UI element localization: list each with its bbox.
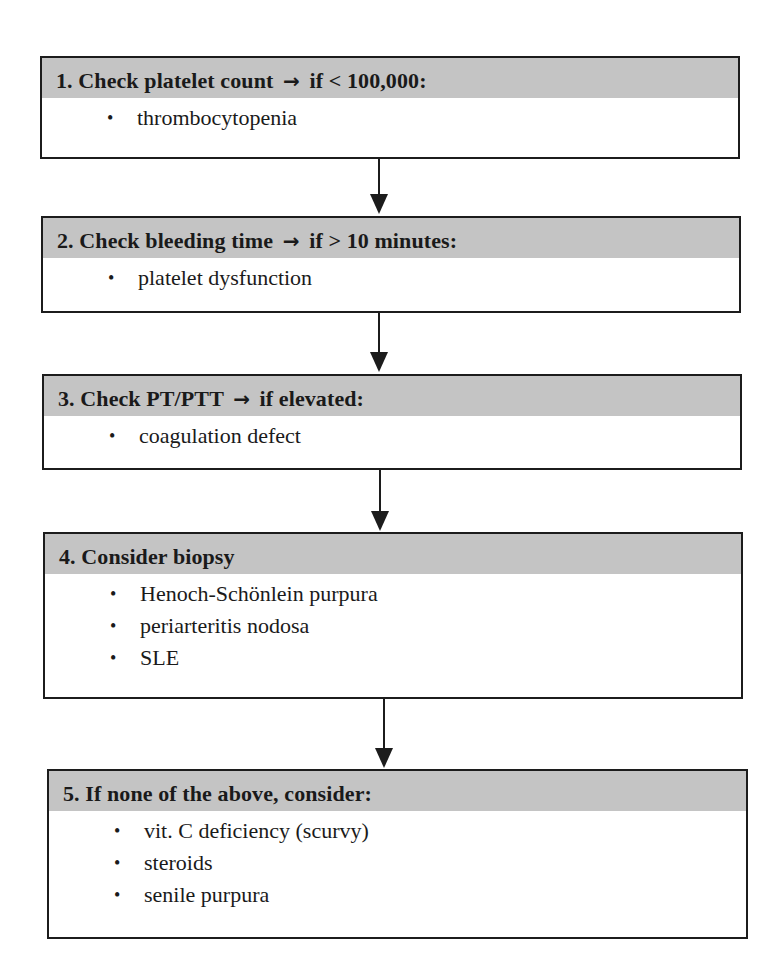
arrow-down-icon [375, 748, 393, 768]
step-2-items: • platelet dysfunction [43, 258, 739, 294]
step-5-items: • vit. C deficiency (scurvy) • steroids … [49, 811, 746, 911]
step-5-box: 5. If none of the above, consider: • vit… [47, 769, 748, 939]
right-arrow-icon: → [233, 387, 250, 411]
step-4-box: 4. Consider biopsy • Henoch-Schönlein pu… [43, 532, 743, 699]
bullet-icon: • [110, 610, 116, 642]
list-item: • vit. C deficiency (scurvy) [49, 815, 746, 847]
step-4-header: 4. Consider biopsy [45, 534, 741, 574]
list-item: • platelet dysfunction [43, 262, 739, 294]
list-item: • senile purpura [49, 879, 746, 911]
bullet-icon: • [114, 847, 120, 879]
bullet-icon: • [110, 642, 116, 674]
step-2-header: 2. Check bleeding time → if > 10 minutes… [43, 218, 739, 258]
arrow-down-icon [370, 194, 388, 214]
list-item: • coagulation defect [44, 420, 740, 452]
list-item: • SLE [45, 642, 741, 674]
step-1-number: 1. [56, 68, 73, 93]
step-3-title: Check PT/PTT [80, 386, 223, 411]
arrow-down-icon [371, 511, 389, 531]
right-arrow-icon: → [283, 229, 300, 253]
step-1-condition: if < 100,000: [309, 68, 426, 93]
arrow-down-icon [370, 352, 388, 372]
right-arrow-icon: → [283, 69, 300, 93]
bullet-icon: • [109, 420, 115, 452]
step-2-box: 2. Check bleeding time → if > 10 minutes… [41, 216, 741, 313]
bullet-icon: • [107, 102, 113, 134]
step-2-number: 2. [57, 228, 74, 253]
step-3-header: 3. Check PT/PTT → if elevated: [44, 376, 740, 416]
step-3-box: 3. Check PT/PTT → if elevated: • coagula… [42, 374, 742, 470]
bullet-icon: • [108, 262, 114, 294]
list-item: • periarteritis nodosa [45, 610, 741, 642]
step-3-number: 3. [58, 386, 75, 411]
list-item: • steroids [49, 847, 746, 879]
step-4-items: • Henoch-Schönlein purpura • periarterit… [45, 574, 741, 674]
step-1-box: 1. Check platelet count → if < 100,000: … [40, 56, 740, 159]
step-1-items: • thrombocytopenia [42, 98, 738, 134]
step-4-title: Consider biopsy [81, 544, 234, 569]
list-item: • thrombocytopenia [42, 102, 738, 134]
step-1-header: 1. Check platelet count → if < 100,000: [42, 58, 738, 98]
step-5-title: If none of the above, consider: [85, 781, 372, 806]
step-2-title: Check bleeding time [79, 228, 273, 253]
bullet-icon: • [110, 578, 116, 610]
step-4-number: 4. [59, 544, 76, 569]
step-5-number: 5. [63, 781, 80, 806]
step-1-title: Check platelet count [78, 68, 273, 93]
step-2-condition: if > 10 minutes: [309, 228, 457, 253]
step-3-condition: if elevated: [260, 386, 364, 411]
step-5-header: 5. If none of the above, consider: [49, 771, 746, 811]
bullet-icon: • [114, 879, 120, 911]
bullet-icon: • [114, 815, 120, 847]
step-3-items: • coagulation defect [44, 416, 740, 452]
list-item: • Henoch-Schönlein purpura [45, 578, 741, 610]
